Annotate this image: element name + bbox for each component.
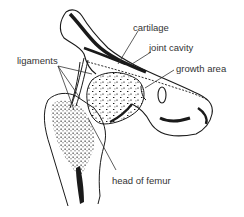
label-ligaments: ligaments — [17, 56, 58, 66]
hip-joint-diagram: cartilage joint cavity growth area ligam… — [0, 0, 244, 217]
label-joint-cavity: joint cavity — [149, 43, 193, 53]
label-cartilage: cartilage — [133, 23, 169, 33]
leader-joint-cavity — [132, 52, 151, 64]
label-growth-area: growth area — [176, 64, 226, 74]
leader-growth-area — [145, 70, 174, 88]
leader-cartilage — [118, 31, 138, 64]
label-head-of-femur: head of femur — [112, 176, 171, 186]
